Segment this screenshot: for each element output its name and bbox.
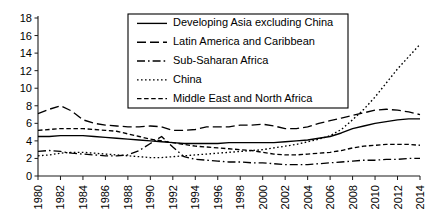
series-line-4 — [38, 129, 420, 155]
x-tick-label: 2004 — [302, 185, 314, 209]
x-tick-label: 2006 — [324, 185, 336, 209]
legend-item-label: Developing Asia excluding China — [173, 16, 334, 28]
legend-item-label: Middle East and North Africa — [173, 92, 313, 104]
y-tick-label: 2 — [26, 152, 32, 164]
x-tick-label: 2014 — [414, 185, 426, 209]
x-tick-label: 1994 — [189, 185, 201, 209]
x-tick-label: 1984 — [77, 185, 89, 209]
y-tick-label: 18 — [20, 12, 32, 24]
y-tick-label: 6 — [26, 117, 32, 129]
x-tick-label: 2012 — [392, 185, 404, 209]
x-tick-label: 2002 — [279, 185, 291, 209]
x-tick-label: 2010 — [369, 185, 381, 209]
x-tick-label: 1982 — [54, 185, 66, 209]
x-tick-label: 2008 — [347, 185, 359, 209]
x-tick-label: 1998 — [234, 185, 246, 209]
chart-container: 024681012141618 198019821984198619881990… — [0, 0, 446, 224]
y-tick-label: 0 — [26, 170, 32, 182]
series-line-2 — [38, 137, 420, 165]
legend-item-label: Latin America and Caribbean — [173, 35, 315, 47]
x-tick-label: 2000 — [257, 185, 269, 209]
x-tick-label: 1980 — [32, 185, 44, 209]
x-tick-label: 1986 — [99, 185, 111, 209]
y-tick-label: 14 — [20, 47, 32, 59]
x-axis: 1980198219841986198819901992199419961998… — [32, 176, 426, 209]
y-tick-label: 10 — [20, 82, 32, 94]
y-tick-label: 12 — [20, 65, 32, 77]
legend-item-label: China — [173, 73, 203, 85]
x-tick-label: 1990 — [144, 185, 156, 209]
y-tick-label: 4 — [26, 135, 32, 147]
y-tick-label: 16 — [20, 30, 32, 42]
x-tick-label: 1992 — [167, 185, 179, 209]
chart-legend: Developing Asia excluding ChinaLatin Ame… — [128, 14, 348, 108]
x-tick-label: 1988 — [122, 185, 134, 209]
legend-item-label: Sub-Saharan Africa — [173, 54, 269, 66]
y-axis: 024681012141618 — [20, 12, 38, 182]
series-line-0 — [38, 119, 420, 144]
line-chart: 024681012141618 198019821984198619881990… — [0, 0, 446, 224]
x-tick-label: 1996 — [212, 185, 224, 209]
y-tick-label: 8 — [26, 100, 32, 112]
